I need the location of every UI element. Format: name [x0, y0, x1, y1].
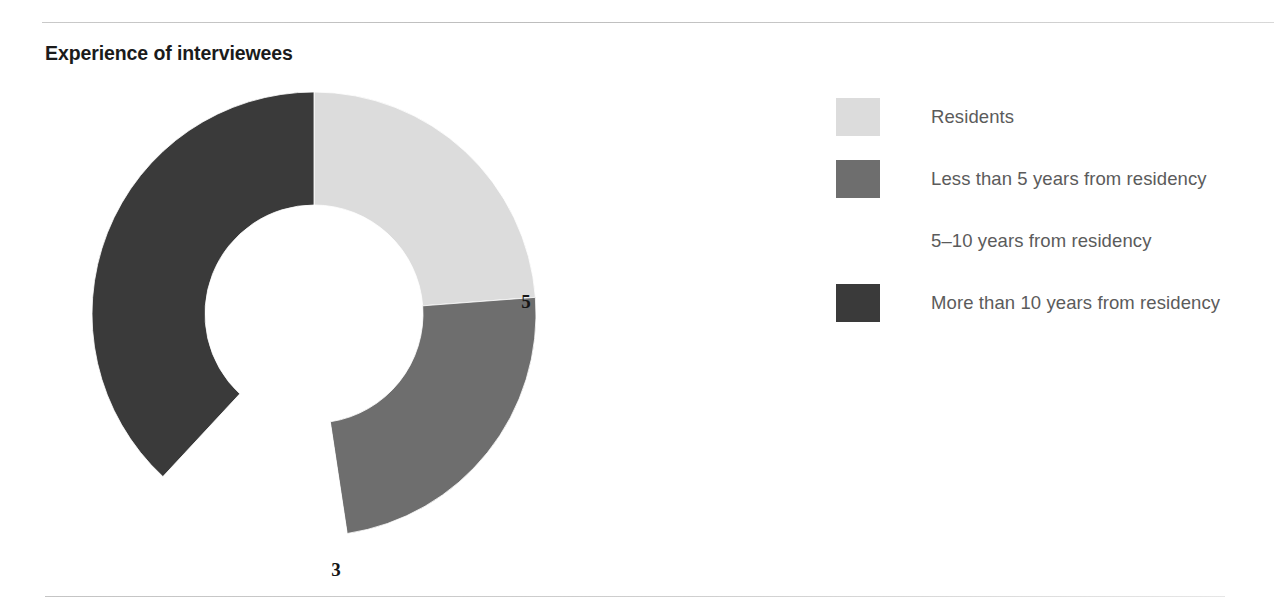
bottom-divider-rule — [45, 596, 1225, 597]
legend-swatch-icon-5-to-10-years — [836, 222, 880, 260]
legend-swatch-icon-more-than-10-years — [836, 284, 880, 322]
legend-item-less-than-5-years: Less than 5 years from residency — [836, 156, 1256, 202]
legend-label-5-to-10-years: 5–10 years from residency — [931, 230, 1152, 252]
page-title: Experience of interviewees — [45, 42, 293, 65]
legend-swatch-icon-residents — [836, 98, 880, 136]
legend-label-less-than-5-years: Less than 5 years from residency — [931, 168, 1207, 190]
legend-item-residents: Residents — [836, 94, 1256, 140]
donut-slice — [330, 297, 536, 533]
top-divider-rule — [42, 22, 1274, 23]
legend-label-residents: Residents — [931, 106, 1014, 128]
figure-page: Experience of interviewees 8 5 5 3 Resid… — [0, 0, 1274, 606]
legend: Residents Less than 5 years from residen… — [836, 94, 1256, 326]
slice-value-residents: 5 — [521, 292, 531, 311]
legend-label-more-than-10-years: More than 10 years from residency — [931, 292, 1220, 314]
donut-svg — [92, 92, 536, 536]
legend-item-5-to-10-years: 5–10 years from residency — [836, 218, 1256, 264]
slice-value-5-to-10-years: 3 — [331, 560, 341, 579]
slice-value-less-than-5-years: 5 — [519, 524, 529, 543]
slice-value-more-than-10-years: 8 — [252, 322, 262, 341]
donut-slice — [314, 92, 535, 306]
legend-item-more-than-10-years: More than 10 years from residency — [836, 280, 1256, 326]
legend-swatch-icon-less-than-5-years — [836, 160, 880, 198]
donut-chart: 8 5 5 3 — [92, 92, 536, 536]
